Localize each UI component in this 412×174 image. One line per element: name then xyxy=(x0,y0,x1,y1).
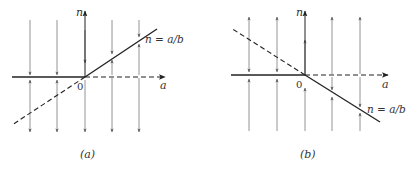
panel-b: n a 0 n = a/b (b) xyxy=(231,6,406,161)
panel-a: n a 0 n = a/b (a) xyxy=(12,6,184,161)
line-label-a: n = a/b xyxy=(145,33,184,45)
caption-b: (b) xyxy=(300,148,316,161)
a-axis-label-a: a xyxy=(160,79,167,92)
unstable-branch-line-b xyxy=(231,28,305,75)
line-label-b: n = a/b xyxy=(367,103,406,115)
caption-a: (a) xyxy=(80,148,95,161)
bifurcation-diagrams: n a 0 n = a/b (a) xyxy=(0,0,412,174)
unstable-branch-line-a xyxy=(12,77,85,125)
origin-label-b: 0 xyxy=(296,79,302,90)
n-axis-label-b: n xyxy=(296,6,303,19)
a-axis-label-b: a xyxy=(382,78,389,91)
origin-label-a: 0 xyxy=(77,81,83,92)
n-axis-label-a: n xyxy=(76,6,83,19)
